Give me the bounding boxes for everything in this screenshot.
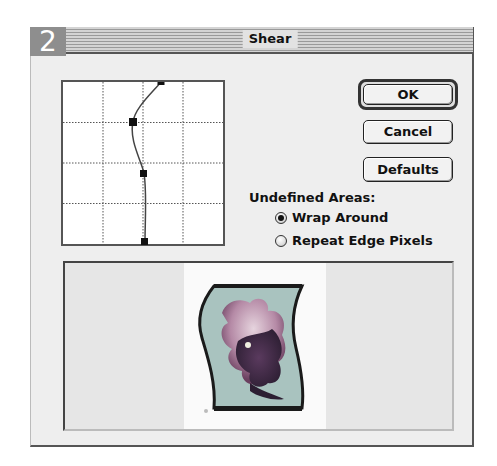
radio-unselected-icon[interactable]: [275, 235, 287, 247]
step-badge: 2: [30, 27, 66, 56]
repeat-edge-pixels-option[interactable]: Repeat Edge Pixels: [275, 233, 433, 248]
curve-point[interactable]: [129, 118, 137, 126]
sheared-image-preview: [184, 263, 326, 429]
window-title: Shear: [243, 30, 298, 48]
radio-selected-icon[interactable]: [275, 212, 287, 224]
shear-curve-graph[interactable]: [61, 80, 225, 246]
curve-point[interactable]: [141, 238, 148, 245]
wrap-around-option[interactable]: Wrap Around: [275, 210, 388, 225]
cancel-button[interactable]: Cancel: [363, 120, 453, 144]
preview-canvas: [184, 263, 326, 429]
curve-grid: [63, 82, 223, 244]
defaults-button[interactable]: Defaults: [363, 157, 453, 182]
ok-button[interactable]: OK: [363, 84, 453, 105]
curve-point[interactable]: [140, 170, 147, 177]
repeat-edge-pixels-label: Repeat Edge Pixels: [292, 233, 433, 248]
title-bar[interactable]: Shear: [31, 27, 473, 54]
wrap-around-label: Wrap Around: [292, 210, 388, 225]
shear-dialog: Shear OK Cancel Defaults Undefined Areas…: [30, 27, 474, 447]
preview-pane[interactable]: [63, 261, 454, 431]
undefined-areas-label: Undefined Areas:: [249, 190, 375, 205]
